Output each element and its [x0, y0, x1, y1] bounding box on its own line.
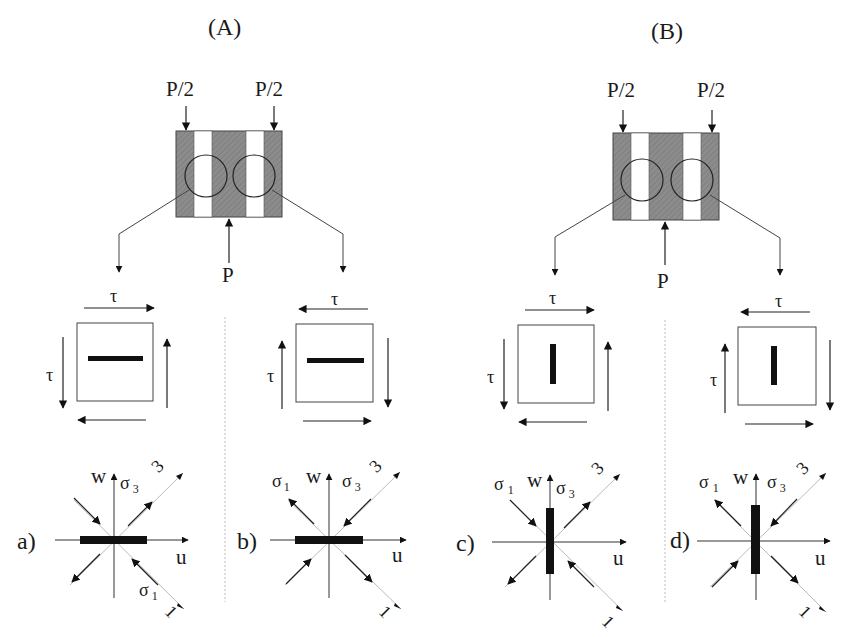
- shear-element-a1: τ τ: [46, 286, 167, 420]
- sigma3-arrow-in-lower: [712, 561, 738, 587]
- tau-side-label: τ: [487, 367, 494, 387]
- crack-horizontal: [88, 356, 143, 361]
- element-square: [77, 323, 153, 401]
- dir1-label: 1: [795, 601, 816, 622]
- sigma3-label: σ3: [342, 471, 361, 494]
- tau-side-label: τ: [267, 366, 274, 386]
- specimen-block-a: [176, 131, 282, 217]
- sigma1-arrow-in-upper: [510, 500, 536, 526]
- stress-diagram-a: a) w σ3 u σ1 3 1: [17, 456, 188, 622]
- sigma1-arrow-out-lower: [345, 555, 372, 582]
- sigma3-label: σ3: [767, 472, 786, 495]
- load-p-label: P: [657, 269, 669, 293]
- direction-1-axis: [288, 500, 401, 609]
- sigma1-arrow-in-lower: [568, 561, 594, 587]
- sigma1-label: σ1: [494, 474, 514, 497]
- sigma3-label: σ3: [556, 478, 575, 501]
- sigma1-arrow-out-lower: [771, 556, 798, 583]
- leader-arrow-right: [710, 195, 780, 275]
- crack-bar-horizontal: [80, 536, 147, 544]
- sigma3-arrow-in-lower: [286, 559, 311, 584]
- u-label: u: [176, 545, 187, 569]
- sigma3-label: σ3: [120, 473, 139, 496]
- w-label: w: [91, 464, 107, 488]
- load-p-label: P: [222, 263, 234, 287]
- stress-diagram-d: d) σ1 w σ3 u 3 1: [670, 458, 830, 622]
- shear-element-a2: τ τ: [267, 289, 388, 421]
- panel-b: (B) P/2 P/2 P τ τ τ: [456, 18, 830, 632]
- sigma3-arrow-in-upper: [344, 499, 371, 526]
- dir3-label: 3: [792, 458, 813, 479]
- direction-1-axis: [714, 500, 826, 612]
- load-p2-right-label: P/2: [255, 77, 283, 101]
- sigma3-arrow-in-upper: [771, 499, 797, 526]
- shear-test-figure: (A) P/2 P/2 P τ τ: [0, 0, 856, 637]
- panel-a-title: (A): [208, 14, 241, 40]
- sigma3-arrow-out-upper: [128, 502, 152, 526]
- crack-vertical: [771, 346, 777, 385]
- w-label: w: [733, 465, 749, 489]
- tau-top-label: τ: [331, 289, 338, 309]
- crack-horizontal: [307, 358, 364, 363]
- sigma1-label: σ1: [139, 580, 158, 603]
- case-label: a): [17, 528, 36, 554]
- sigma3-arrow-out-upper: [564, 502, 590, 528]
- sigma1-label: σ1: [699, 472, 719, 495]
- dir1-label: 1: [598, 611, 619, 632]
- sigma1-arrow-in-upper: [74, 498, 100, 524]
- tau-top-label: τ: [549, 288, 556, 308]
- load-p2-left-label: P/2: [166, 77, 194, 101]
- u-label: u: [613, 546, 624, 570]
- specimen-block-b: [613, 133, 719, 220]
- dir1-label: 1: [161, 601, 182, 622]
- sigma1-arrow-out-upper: [715, 500, 741, 526]
- load-p2-right-label: P/2: [697, 78, 725, 102]
- tau-top-label: τ: [775, 291, 782, 311]
- sigma1-label: σ1: [272, 471, 290, 494]
- w-label: w: [527, 468, 543, 492]
- shear-element-b1: τ τ: [487, 288, 608, 422]
- panel-b-title: (B): [651, 18, 683, 44]
- dir3-label: 3: [365, 456, 386, 477]
- leader-arrow-right: [272, 190, 343, 272]
- stress-diagram-c: c) σ1 w σ3 u 3 1: [456, 458, 626, 632]
- tau-side-label: τ: [710, 370, 717, 390]
- crack-vertical: [550, 344, 556, 384]
- dir3-label: 3: [147, 456, 168, 477]
- u-label: u: [392, 543, 403, 567]
- shear-element-b2: τ τ: [710, 291, 830, 424]
- dir1-label: 1: [375, 601, 396, 622]
- crack-bar-vertical: [546, 508, 554, 574]
- tau-top-label: τ: [110, 286, 117, 306]
- dir3-label: 3: [587, 458, 608, 479]
- crack-bar-vertical: [751, 505, 760, 574]
- w-label: w: [306, 464, 322, 488]
- sigma1-arrow-out-upper: [289, 499, 314, 524]
- u-label: u: [815, 546, 826, 570]
- case-label: c): [456, 530, 475, 556]
- sigma3-arrow-out-lower: [72, 554, 100, 582]
- tau-side-label: τ: [46, 365, 53, 385]
- direction-1-axis: [74, 500, 184, 609]
- stress-diagram-b: b) σ1 w σ3 u 3 1: [237, 456, 406, 622]
- load-p2-left-label: P/2: [607, 78, 635, 102]
- sigma3-arrow-out-lower: [508, 556, 536, 584]
- crack-bar-horizontal: [295, 536, 363, 544]
- case-label: b): [237, 528, 257, 554]
- panel-a: (A) P/2 P/2 P τ τ: [17, 14, 406, 622]
- case-label: d): [670, 527, 690, 553]
